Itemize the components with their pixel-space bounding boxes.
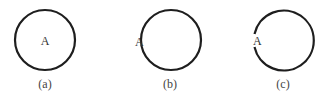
panel-a: A (a) xyxy=(15,10,75,91)
panel-c: A (c) xyxy=(253,11,314,91)
point-label-b: A xyxy=(135,35,144,49)
panel-b: A (b) xyxy=(135,10,201,91)
circle-b xyxy=(141,10,201,70)
point-label-a: A xyxy=(41,34,50,48)
point-label-c: A xyxy=(253,34,262,48)
arc-c xyxy=(255,11,314,71)
figure-canvas: A (a) A (b) A (c) xyxy=(0,0,330,98)
caption-c: (c) xyxy=(276,77,289,91)
caption-b: (b) xyxy=(163,77,177,91)
caption-a: (a) xyxy=(38,77,51,91)
